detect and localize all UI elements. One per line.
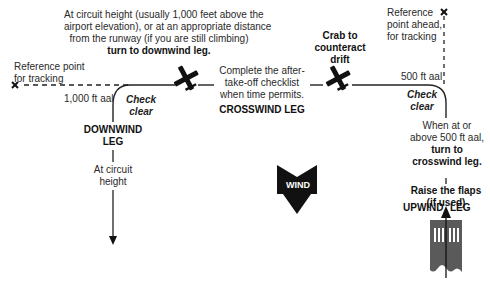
reference-point-left-label: Reference point for tracking — [14, 61, 85, 85]
downwind-turn-note: At circuit height (usually 1,000 feet ab… — [64, 9, 254, 57]
altitude-1000-label: 1,000 ft aal — [64, 93, 113, 105]
crosswind-turn-note: When at or above 500 ft aal, turn to cro… — [408, 120, 486, 168]
airplane-icon — [168, 60, 203, 95]
upwind-leg-label-left: UPWIND — [403, 202, 444, 214]
altitude-500-label: 500 ft aal — [401, 71, 442, 83]
downwind-arrowhead-icon — [109, 236, 117, 245]
wind-label: WIND — [279, 180, 317, 190]
after-takeoff-checklist-note: Complete the after- take-off checklist w… — [216, 65, 308, 101]
circuit-height-note: At circuit height — [88, 164, 138, 188]
upwind-leg-label-right: LEG — [450, 202, 471, 214]
crosswind-leg-label: CROSSWIND LEG — [216, 104, 308, 116]
crab-drift-note: Crab to counteract drift — [308, 30, 372, 66]
check-clear-left: Check clear — [121, 94, 161, 118]
reference-point-right-label: Reference point ahead, for tracking — [387, 7, 442, 43]
check-clear-right: Check clear — [404, 89, 440, 113]
downwind-leg-label: DOWNWIND LEG — [78, 124, 148, 148]
